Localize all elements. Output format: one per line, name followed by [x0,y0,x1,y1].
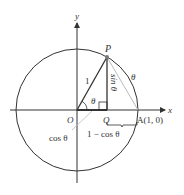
angle-arc [82,101,87,110]
arc-label: θ [131,72,136,82]
cos-leader [72,111,92,130]
radius-label: 1 [85,76,90,86]
sin-label: sin θ [109,74,119,92]
origin-label: O [67,115,74,125]
cos-label: cos θ [49,133,68,143]
bracket-one-minus-cos [107,122,137,127]
x-axis-label: x [167,105,172,115]
a-label: A(1, 0) [137,115,163,125]
p-label: P [104,43,111,54]
point-p [105,55,109,59]
q-label: Q [103,115,110,125]
angle-label: θ [91,96,96,106]
y-axis-label: y [74,11,79,21]
right-angle-mark [99,102,107,110]
one-minus-cos-label: 1 − cos θ [87,129,120,139]
unit-circle-diagram: y x P 1 θ θ sin θ O Q A(1, 0) cos θ 1 − … [0,0,184,195]
